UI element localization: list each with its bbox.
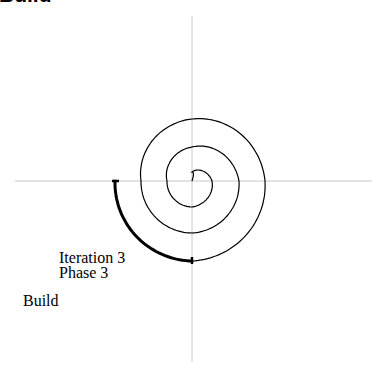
iteration-label: Iteration 3 (59, 250, 125, 265)
stage-label: Build (23, 293, 59, 308)
spiral-path (141, 119, 266, 261)
phase-label: Phase 3 (59, 265, 108, 280)
spiral-plot (0, 0, 384, 380)
current-phase-arc (115, 181, 192, 261)
spiral-model-diagram: Build Iteration 3 Phase 3 Build (0, 0, 384, 380)
